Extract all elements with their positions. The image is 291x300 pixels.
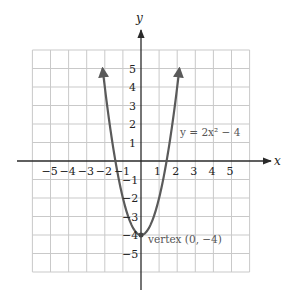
y-tick-label: −4 — [122, 229, 138, 242]
x-axis-label: x — [274, 154, 281, 168]
curve-right-branch — [141, 69, 179, 235]
x-tick-label: −3 — [78, 165, 94, 178]
y-tick-label: −2 — [122, 192, 138, 205]
vertex-point — [139, 233, 144, 238]
x-tick-label: 3 — [190, 165, 197, 178]
y-tick-label: −1 — [122, 174, 138, 187]
y-tick-label: −5 — [122, 248, 138, 261]
y-axis-label: y — [135, 11, 143, 25]
x-tick-label: 4 — [208, 165, 215, 178]
x-tick-label: 2 — [172, 165, 179, 178]
y-tick-label: 1 — [129, 137, 136, 150]
x-tick-label: 1 — [154, 165, 161, 178]
y-tick-label: 4 — [129, 81, 136, 94]
x-tick-label: 5 — [227, 165, 234, 178]
y-tick-label: 3 — [129, 100, 136, 113]
equation-label: y = 2x² − 4 — [179, 126, 241, 138]
vertex-label: vertex (0, −4) — [147, 233, 222, 245]
x-tick-label: −2 — [96, 165, 112, 178]
y-tick-label: −3 — [122, 211, 138, 224]
parabola-chart: −5−4−3−2−112345−5−4−3−2−112345 x y y = 2… — [0, 0, 291, 300]
y-tick-label: 2 — [129, 118, 136, 131]
x-tick-label: −5 — [42, 165, 58, 178]
x-tick-label: −4 — [60, 165, 76, 178]
y-tick-label: 5 — [129, 63, 136, 76]
